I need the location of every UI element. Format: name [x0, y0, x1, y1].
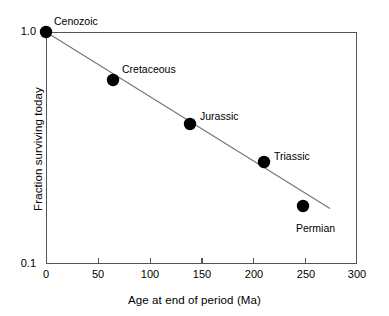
xtick-label-150: 150 [182, 268, 222, 280]
x-axis-ticks [47, 258, 357, 264]
y-axis-title: Fraction surviving today [32, 33, 44, 265]
xtick-label-0: 0 [26, 268, 66, 280]
data-point-cretaceous [107, 74, 119, 86]
point-label-permian: Permian [296, 222, 335, 234]
xtick-label-50: 50 [78, 268, 118, 280]
xtick-label-250: 250 [286, 268, 326, 280]
ytick-label-1: 1.0 [2, 25, 36, 37]
data-point-permian [297, 200, 309, 212]
xtick-label-200: 200 [234, 268, 274, 280]
point-label-triassic: Triassic [274, 150, 310, 162]
point-label-jurassic: Jurassic [200, 110, 239, 122]
xtick-label-300: 300 [337, 268, 377, 280]
data-point-jurassic [184, 118, 196, 130]
point-label-cenozoic: Cenozoic [54, 15, 98, 27]
chart-figure: 1.0 0.1 0 50 100 150 200 250 300 Cenozoi… [0, 0, 389, 316]
point-label-cretaceous: Cretaceous [122, 63, 176, 75]
x-axis-title: Age at end of period (Ma) [0, 294, 389, 306]
xtick-label-100: 100 [130, 268, 170, 280]
data-point-triassic [258, 156, 270, 168]
